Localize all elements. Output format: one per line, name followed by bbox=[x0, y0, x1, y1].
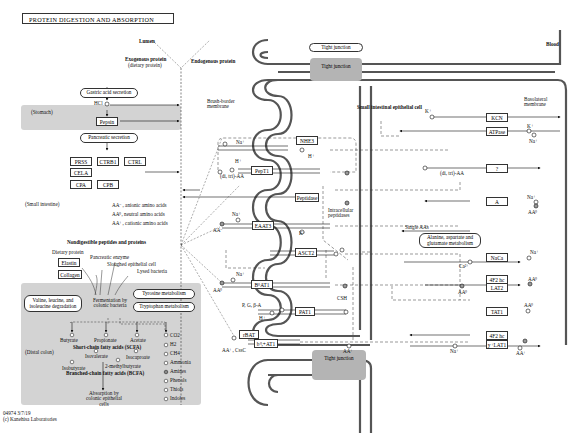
gene-cpa[interactable]: CPA bbox=[70, 180, 92, 189]
gene-cela[interactable]: CELA bbox=[70, 168, 92, 177]
aa-plus-ylat1: AA⁺ bbox=[516, 351, 527, 356]
tight-junction-bottom: Tight junction bbox=[312, 350, 366, 380]
stomach-label: (Stomach) bbox=[31, 110, 53, 115]
product-h2: H2 bbox=[170, 342, 176, 347]
na-a: Na⁺ bbox=[527, 195, 536, 200]
gene-pepsin[interactable]: Pepsin bbox=[96, 117, 118, 126]
gene-cpb[interactable]: CPB bbox=[97, 180, 119, 189]
aa-legend-neutral: AA⁰, neutral amino acids bbox=[112, 212, 165, 217]
na-eaat3: Na⁺ bbox=[232, 212, 241, 217]
scfa-label: Short-chain fatty acids (SCFA) bbox=[73, 345, 141, 350]
gene-asct2[interactable]: ASCT2 bbox=[295, 248, 317, 257]
gene-atpase[interactable]: ATPase bbox=[486, 127, 508, 136]
intracellular-peptidases: Intracellular peptidases bbox=[328, 208, 358, 219]
distal-colon-label: (Distal colon) bbox=[25, 350, 54, 355]
gene-b0-at1[interactable]: b⁰,+AT1 bbox=[254, 339, 278, 348]
map-tryptophan-metabolism[interactable]: Tryptophan metabolism bbox=[133, 302, 195, 312]
aa-cssc-label: AA⁺, CssC bbox=[222, 348, 246, 353]
gene-tat1[interactable]: TAT1 bbox=[486, 307, 508, 316]
tight-junction-link[interactable]: Tight junction bbox=[309, 43, 363, 52]
pathway-graphics bbox=[0, 0, 576, 433]
na-naca: Na⁺ bbox=[530, 250, 539, 255]
compartment-cell: Small intestinal epithelial cell bbox=[357, 105, 422, 110]
aa-legend-anionic: AA⁻, anionic amino acids bbox=[112, 203, 167, 208]
nondigestible-header: Nondigestible peptides and proteins bbox=[67, 240, 146, 245]
pgba-label: P, G, β-A bbox=[242, 303, 261, 308]
na-nhe3: Na⁺ bbox=[236, 140, 245, 145]
bcfa-2-methylbutyrate: 2-methylbutyrate bbox=[105, 364, 141, 369]
brush-border-label: Brush-border membrane bbox=[207, 99, 239, 110]
aa-zero-tat1: AA⁰ bbox=[524, 303, 534, 308]
na-atpase: Na⁺ bbox=[529, 139, 538, 144]
gene-prss[interactable]: PRSS bbox=[70, 157, 92, 166]
gene-naca[interactable]: NaCa bbox=[486, 253, 508, 262]
gene-y-lat1[interactable]: y⁺LAT1 bbox=[486, 340, 508, 349]
gene-rbat[interactable]: rBAT bbox=[239, 330, 259, 339]
basolateral-label: Basolateral membrane bbox=[524, 97, 556, 108]
gene-4f2hc-2[interactable]: 4F2 hc bbox=[486, 331, 508, 340]
scfa-propionate: Propionate bbox=[94, 338, 116, 343]
di-tri-aa-cell: (di, tri)-AA bbox=[440, 171, 464, 176]
product-thiols: Thiols bbox=[170, 387, 183, 392]
product-indoles: Indoles bbox=[170, 396, 185, 401]
map-pancreatic-secretion[interactable]: Pancreatic secretion bbox=[80, 133, 138, 143]
aa-zero-lat2-out: AA⁰ bbox=[528, 277, 538, 282]
gene-elastin[interactable]: Elastin bbox=[58, 258, 80, 267]
na-b0at1: Na⁺ bbox=[236, 272, 245, 277]
h-nhe3: H⁺ bbox=[308, 154, 315, 159]
h-pept1: H⁺ bbox=[235, 159, 242, 164]
k-kcn: K⁺ bbox=[425, 109, 432, 114]
compartment-lumen: Lumen bbox=[139, 39, 155, 44]
compartment-blood: Blood bbox=[546, 42, 559, 47]
exogenous-protein-sub: (dietary protein) bbox=[128, 63, 162, 68]
fermentation-label: Fermentation by colonic bacteria bbox=[90, 298, 130, 309]
product-ammonia: Ammonia bbox=[170, 360, 191, 365]
gene-peptidase[interactable]: Peptidase bbox=[295, 193, 319, 202]
gene-a[interactable]: A bbox=[486, 197, 508, 206]
bcfa-isocaproate: Isocaproate bbox=[126, 355, 150, 360]
csh-label: CSH bbox=[337, 296, 347, 301]
gene-eaat3[interactable]: EAAT3 bbox=[252, 221, 274, 230]
gene-pat1[interactable]: PAT1 bbox=[295, 307, 315, 316]
aa-legend-cationic: AA⁺, cationic amino acids bbox=[112, 221, 168, 226]
tight-junction-top: Tight junction bbox=[310, 58, 362, 81]
absorption-label: Absorption by colonic epithelial cells bbox=[83, 391, 125, 407]
single-aas: Single AAs bbox=[405, 225, 429, 230]
scfa-acetate: Acetate bbox=[130, 338, 146, 343]
map-tyrosine-metabolism[interactable]: Tyrosine metabolism bbox=[133, 289, 195, 299]
sloughed-cell-label: Sloughed epithelial cell bbox=[107, 262, 156, 267]
dietary-protein-label: Dietary protein bbox=[52, 250, 84, 255]
gene-ctrl[interactable]: CTRL bbox=[124, 157, 146, 166]
product-phenols: Phenols bbox=[170, 378, 186, 383]
product-amines: Amines bbox=[170, 369, 186, 374]
bcfa-isovalerate: Isovalerate bbox=[85, 354, 108, 359]
gene-collagen[interactable]: Collagen bbox=[58, 270, 82, 279]
h-pat1: H⁺ bbox=[259, 316, 266, 321]
aa-zero-lat2-in: AA⁰ bbox=[458, 290, 468, 295]
map-bcaa-degradation[interactable]: Valine, leucine, and isoleucine degradat… bbox=[24, 295, 82, 312]
gene-lat2[interactable]: LAT2 bbox=[486, 283, 508, 292]
gene-pept1[interactable]: PepT1 bbox=[251, 166, 273, 175]
gene-nhe3[interactable]: NHE3 bbox=[296, 136, 318, 145]
aa-zero-a: AA⁰ bbox=[528, 210, 538, 215]
aa-minus-lumen: AA⁻ bbox=[213, 228, 224, 233]
map-ala-asp-glu-metabolism[interactable]: Alanine, aspartate and glutamate metabol… bbox=[419, 233, 481, 248]
footer-copyright: (c) Kanehisa Laboratories bbox=[3, 417, 57, 422]
na-ylat1: Na⁺ bbox=[450, 349, 459, 354]
scfa-butyrate: Butyrate bbox=[60, 338, 78, 343]
product-ch4: CH4 bbox=[170, 351, 180, 356]
pancreatic-enzyme-label: Pancreatic enzyme bbox=[90, 255, 129, 260]
map-gastric-acid-secretion[interactable]: Gastric acid secretion bbox=[80, 88, 138, 98]
gene-kcn[interactable]: KCN bbox=[486, 113, 508, 122]
di-tri-aa-lumen: (di, tri)-AA bbox=[220, 174, 244, 179]
gene-b0at1[interactable]: B⁰AT1 bbox=[251, 280, 273, 289]
ca-naca: Ca²⁺ bbox=[459, 264, 469, 269]
gene-ctrb1[interactable]: CTRB1 bbox=[97, 157, 119, 166]
small-intestine-label: (Small intestine) bbox=[25, 202, 59, 207]
hcl-compound: HCl bbox=[94, 101, 103, 106]
page-title: PROTEIN DIGESTION AND ABSORPTION bbox=[22, 13, 174, 24]
k-eaat3: K⁺ bbox=[299, 231, 306, 236]
gene-unknown[interactable]: ? bbox=[486, 164, 508, 173]
product-co2: CO2 bbox=[170, 333, 180, 338]
k-atpase: K⁺ bbox=[527, 124, 534, 129]
